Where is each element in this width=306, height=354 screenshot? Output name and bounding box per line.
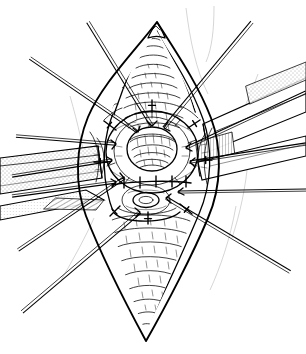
surgical-illustration [0, 0, 306, 354]
figure-root [0, 0, 306, 354]
